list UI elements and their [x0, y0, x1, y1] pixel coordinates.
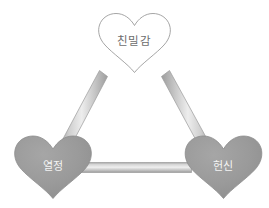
diagram-canvas — [0, 0, 269, 208]
node-passion[interactable] — [15, 136, 92, 199]
node-commitment[interactable] — [185, 136, 262, 199]
connector-passion-commitment — [80, 163, 192, 173]
love-triangle-diagram: 친밀감 열정 헌신 — [0, 0, 269, 208]
node-intimacy[interactable] — [99, 14, 171, 73]
